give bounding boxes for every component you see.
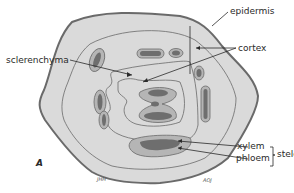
- vascular-bundle: [99, 111, 109, 129]
- label-sclerenchyma: sclerenchyma: [6, 56, 69, 65]
- label-epidermis: epidermis: [230, 7, 275, 16]
- vascular-bundle: [201, 86, 210, 122]
- label-xylem: xylem: [237, 142, 264, 151]
- label-cortex: cortex: [238, 44, 266, 53]
- vascular-bundle: [169, 49, 183, 58]
- vascular-bundle: [137, 49, 164, 58]
- vascular-bundle: [94, 90, 106, 114]
- label-phloem: phloem: [236, 154, 270, 163]
- artist-signature: JHH: [97, 176, 106, 182]
- vascular-bundle: [194, 66, 204, 80]
- artist-signature: AOJ: [203, 177, 212, 183]
- stem-cross-section-diagram: [0, 0, 294, 193]
- figure-letter: A: [36, 158, 43, 168]
- label-stele: stele: [277, 150, 294, 159]
